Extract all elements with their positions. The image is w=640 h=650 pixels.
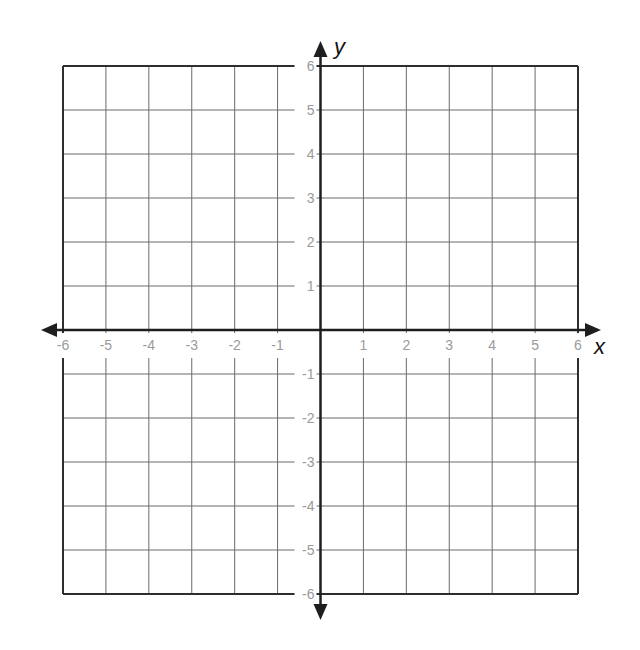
y-tick-label: 6 — [307, 58, 315, 74]
x-axis-label: x — [593, 334, 606, 359]
x-tick-label: -1 — [271, 337, 284, 353]
x-tick-label: -5 — [100, 337, 113, 353]
x-tick-label: 5 — [531, 337, 539, 353]
y-tick-label: 4 — [307, 146, 315, 162]
y-tick-label: 3 — [307, 190, 315, 206]
y-tick-label: -4 — [302, 498, 315, 514]
y-axis-label: y — [332, 34, 347, 59]
y-tick-label: -1 — [302, 366, 315, 382]
x-tick-label: -6 — [57, 337, 70, 353]
axes — [41, 41, 601, 620]
x-tick-label: 2 — [402, 337, 410, 353]
y-tick-label: -6 — [302, 586, 315, 602]
x-tick-label: 1 — [360, 337, 368, 353]
y-tick-label: -5 — [302, 542, 315, 558]
y-tick-label: 2 — [307, 234, 315, 250]
arrow-down-icon — [314, 604, 328, 620]
x-tick-label: -2 — [228, 337, 241, 353]
x-tick-label: 3 — [445, 337, 453, 353]
x-tick-label: -4 — [143, 337, 156, 353]
arrow-left-icon — [41, 323, 57, 337]
x-tick-label: 4 — [488, 337, 496, 353]
y-tick-label: -3 — [302, 454, 315, 470]
y-tick-label: 1 — [307, 278, 315, 294]
y-tick-label: -2 — [302, 410, 315, 426]
arrow-up-icon — [314, 41, 328, 57]
x-tick-label: -3 — [186, 337, 199, 353]
y-tick-label: 5 — [307, 102, 315, 118]
x-tick-label: 6 — [574, 337, 582, 353]
coordinate-plane: -6-5-4-3-2-1123456 654321-1-2-3-4-5-6 x … — [0, 0, 640, 650]
